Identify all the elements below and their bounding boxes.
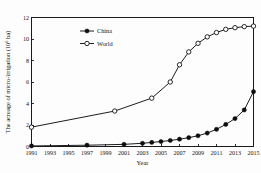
data-point-china: [85, 143, 89, 147]
data-point-china: [233, 116, 237, 120]
legend-label: World: [97, 40, 113, 47]
data-point-world: [187, 50, 191, 54]
data-point-china: [224, 122, 228, 126]
data-point-world: [168, 80, 172, 84]
y-tick-label: 12: [23, 15, 29, 21]
data-point-world: [224, 27, 228, 31]
data-point-china: [187, 136, 191, 140]
x-tick-label: 2011: [211, 150, 223, 156]
series-line-china: [32, 92, 254, 146]
series-layer: [29, 24, 255, 148]
x-tick-label: 1997: [81, 150, 93, 156]
data-point-world: [177, 63, 181, 67]
data-point-world: [29, 125, 33, 129]
data-point-world: [251, 24, 255, 28]
series-china: [29, 90, 255, 148]
x-tick-label: 2009: [192, 150, 204, 156]
data-point-china: [150, 140, 154, 144]
data-point-world: [205, 35, 209, 39]
data-point-china: [242, 108, 246, 112]
data-point-china: [177, 137, 181, 141]
data-point-china: [205, 131, 209, 135]
data-point-world: [242, 24, 246, 28]
legend-item-china[interactable]: China: [80, 27, 112, 34]
y-tick-label: 6: [26, 79, 29, 85]
data-point-china: [251, 90, 255, 94]
legend-marker: [85, 29, 89, 33]
y-axis-title: The acreage of micro-irrigation (10⁶ ha): [4, 31, 12, 133]
x-tick-label: 2003: [136, 150, 148, 156]
data-point-world: [196, 41, 200, 45]
x-tick-label: 1991: [25, 150, 37, 156]
x-tick-label: 1999: [99, 150, 111, 156]
series-world: [29, 24, 255, 129]
data-point-china: [140, 141, 144, 145]
x-tick-label: 1993: [44, 150, 56, 156]
y-tick-label: 10: [23, 36, 29, 42]
chart-figure: 024681012 199119931995199719992001200320…: [0, 0, 261, 173]
legend-marker: [85, 41, 89, 45]
x-tick-label: 1995: [62, 150, 74, 156]
data-point-china: [29, 144, 33, 148]
data-point-china: [159, 139, 163, 143]
series-line-world: [32, 26, 254, 127]
data-point-world: [233, 26, 237, 30]
x-tick-label: 2001: [118, 150, 130, 156]
data-point-world: [113, 109, 117, 113]
data-point-china: [168, 138, 172, 142]
y-tick-label: 4: [26, 101, 29, 107]
data-point-china: [122, 142, 126, 146]
legend-label: China: [97, 27, 112, 34]
y-tick-label: 8: [26, 58, 29, 64]
y-tick-label: 2: [26, 122, 29, 128]
chart-legend: ChinaWorld: [80, 27, 113, 47]
x-axis-title: Year: [137, 159, 150, 166]
data-point-china: [214, 127, 218, 131]
x-tick-label: 2005: [155, 150, 167, 156]
legend-item-world[interactable]: World: [80, 40, 113, 47]
x-tick-label: 2013: [229, 150, 241, 156]
data-point-world: [150, 96, 154, 100]
x-tick-label: 2007: [173, 150, 185, 156]
data-point-china: [196, 134, 200, 138]
x-tick-label: 2015: [247, 150, 259, 156]
data-point-world: [214, 30, 218, 34]
line-chart-canvas: 024681012 199119931995199719992001200320…: [0, 0, 261, 173]
